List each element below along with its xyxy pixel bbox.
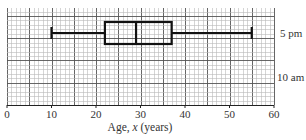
x-tick-label: 30 [135,108,147,120]
x-tick-label: 20 [91,108,103,120]
x-tick-label: 50 [224,108,236,120]
box-plot-chart: 0102030405060 5 pm 10 am Age, x (years) [0,0,306,140]
x-axis: 0102030405060 [4,105,280,120]
x-tick-label: 0 [4,108,10,120]
x-tick-label: 60 [269,108,281,120]
x-tick-label: 40 [180,108,192,120]
row-label-10am: 10 am [277,71,305,83]
x-axis-title: Age, x (years) [108,121,173,134]
row-label-5pm: 5 pm [280,27,303,39]
x-tick-label: 10 [46,108,58,120]
